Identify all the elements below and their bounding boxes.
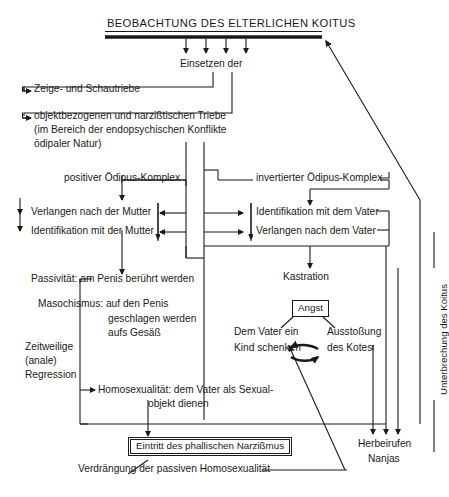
label-ausstossung-des-kotes-line1: Ausstoßung bbox=[327, 326, 381, 338]
label-zeige-schautriebe: Zeige- und Schautriebe bbox=[34, 83, 140, 95]
label-regression-line1: Zeitweilige bbox=[25, 341, 73, 353]
label-positiver-oedipus-komplex: positiver Ödipus-Komplex bbox=[64, 172, 180, 184]
label-identifikation-mit-der-mutter: Identifikation mit der Mutter bbox=[31, 225, 154, 237]
label-ausstossung-des-kotes-line2: des Kotes bbox=[327, 342, 372, 354]
label-objektbezogene-triebe-line1: objektbezogenen und narzißtischen Triebe bbox=[34, 110, 226, 122]
phallic-narcissism-box: Eintritt des phallischen Narzißmus bbox=[128, 437, 292, 456]
label-passivitaet: Passivität: am Penis berührt werden bbox=[31, 273, 194, 285]
label-objektbezogene-triebe-line2: (im Bereich der endopsychischen Konflikt… bbox=[34, 124, 227, 136]
label-herbeirufen: Herbeirufen bbox=[358, 438, 411, 450]
label-dem-vater-ein-kind-line1: Dem Vater ein bbox=[234, 326, 298, 338]
label-verdraengung: Verdrängung der passiven Homosexualität bbox=[78, 463, 270, 475]
label-objektbezogene-triebe-line3: ödipaler Natur) bbox=[34, 138, 101, 150]
label-homosexualitaet-line1: Homosexualität: dem Vater als Sexual- bbox=[98, 384, 273, 396]
label-masochismus-line2: geschlagen werden bbox=[108, 313, 196, 325]
label-invertierter-oedipus-komplex: invertierter Ödipus-Komplex bbox=[256, 172, 382, 184]
label-verlangen-nach-der-mutter: Verlangen nach der Mutter bbox=[31, 206, 151, 218]
page-title: BEOBACHTUNG DES ELTERLICHEN KOITUS bbox=[107, 17, 356, 29]
label-nanjas: Nanjas bbox=[368, 453, 400, 465]
label-verlangen-nach-dem-vater: Verlangen nach dem Vater bbox=[256, 225, 376, 237]
label-regression-line2: (anale) bbox=[25, 355, 57, 367]
label-einsetzen-der: Einsetzen der bbox=[180, 58, 242, 70]
diagonal-repression bbox=[289, 346, 345, 470]
label-unterbrechung-des-koitus: Unterbrechung des Koitus bbox=[438, 284, 449, 395]
label-regression-line3: Regression bbox=[25, 369, 77, 381]
label-homosexualitaet-line2: objekt dienen bbox=[148, 398, 209, 410]
label-identifikation-mit-dem-vater: Identifikation mit dem Vater bbox=[256, 206, 379, 218]
angst-box: Angst bbox=[292, 300, 329, 317]
label-dem-vater-ein-kind-line2: Kind schenken bbox=[234, 342, 301, 354]
label-masochismus-line1: Masochismus: auf den Penis bbox=[38, 298, 168, 310]
label-masochismus-line3: aufs Gesäß bbox=[108, 327, 161, 339]
label-kastration: Kastration bbox=[283, 271, 329, 283]
